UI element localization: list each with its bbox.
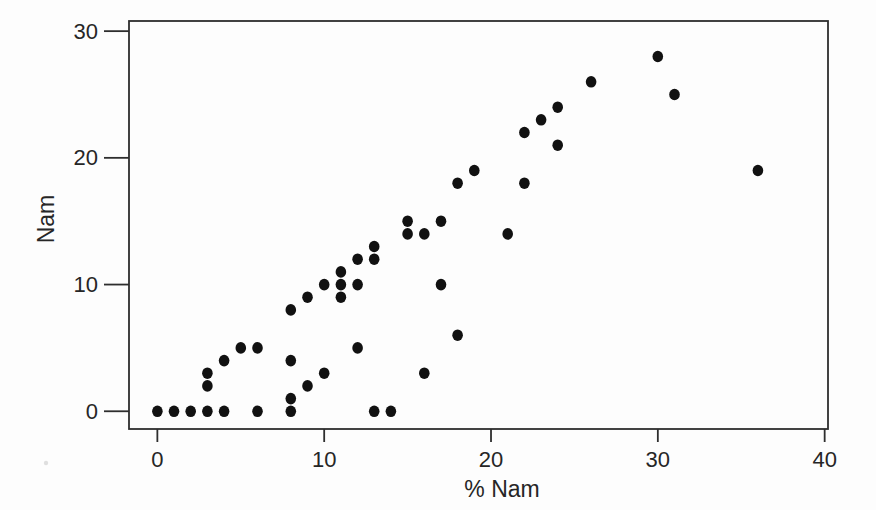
data-point — [286, 304, 297, 316]
data-point — [519, 127, 530, 139]
data-point — [386, 406, 397, 418]
data-point — [352, 279, 363, 291]
data-point — [202, 380, 213, 392]
data-point — [336, 266, 347, 278]
data-point — [653, 51, 664, 63]
data-point — [319, 367, 330, 379]
data-point — [402, 228, 413, 240]
data-point — [552, 139, 563, 151]
x-axis-ticks: 010203040 — [151, 429, 837, 472]
data-point — [552, 101, 563, 113]
data-point — [352, 342, 363, 354]
data-point — [436, 215, 447, 227]
data-point — [419, 367, 430, 379]
data-point — [302, 291, 313, 303]
scatter-chart: 010203040 0102030 % Nam Nam — [0, 0, 876, 510]
x-axis-title: % Nam — [464, 476, 539, 502]
data-points — [152, 51, 763, 417]
scatter-plot-figure: 010203040 0102030 % Nam Nam — [0, 0, 876, 510]
data-point — [302, 380, 313, 392]
data-point — [336, 291, 347, 303]
y-tick-label: 10 — [74, 272, 98, 297]
data-point — [402, 215, 413, 227]
data-point — [336, 279, 347, 291]
plot-area-border — [129, 21, 828, 429]
data-point — [185, 406, 196, 418]
data-point — [252, 406, 263, 418]
data-point — [169, 406, 180, 418]
y-axis-ticks: 0102030 — [74, 19, 129, 424]
data-point — [152, 406, 163, 418]
data-point — [219, 355, 230, 367]
scan-artifact-speck — [44, 461, 48, 465]
x-tick-label: 40 — [812, 447, 836, 472]
data-point — [452, 177, 463, 189]
data-point — [536, 114, 547, 126]
data-point — [669, 89, 680, 101]
data-point — [586, 76, 597, 88]
data-point — [436, 279, 447, 291]
data-point — [369, 406, 380, 418]
y-tick-label: 20 — [74, 145, 98, 170]
data-point — [286, 393, 297, 405]
x-tick-label: 30 — [646, 447, 670, 472]
y-tick-label: 0 — [86, 399, 98, 424]
data-point — [286, 406, 297, 418]
y-axis-title: Nam — [33, 195, 59, 244]
data-point — [419, 228, 430, 240]
data-point — [202, 367, 213, 379]
data-point — [319, 279, 330, 291]
data-point — [452, 329, 463, 341]
x-tick-label: 20 — [479, 447, 503, 472]
data-point — [469, 165, 480, 177]
data-point — [369, 241, 380, 253]
x-tick-label: 0 — [151, 447, 163, 472]
data-point — [202, 406, 213, 418]
data-point — [352, 253, 363, 265]
data-point — [252, 342, 263, 354]
data-point — [286, 355, 297, 367]
x-tick-label: 10 — [312, 447, 336, 472]
data-point — [753, 165, 764, 177]
data-point — [236, 342, 247, 354]
y-tick-label: 30 — [74, 19, 98, 44]
data-point — [219, 406, 230, 418]
data-point — [369, 253, 380, 265]
data-point — [519, 177, 530, 189]
data-point — [502, 228, 513, 240]
